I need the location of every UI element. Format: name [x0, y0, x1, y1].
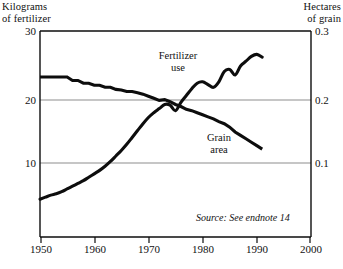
- x-axis-ticks: [41, 237, 310, 243]
- series-annotation-fertilizer-use: Fertilizer use: [148, 50, 208, 73]
- plot-area: [0, 0, 343, 269]
- series-annotation-grain-area: Grain area: [198, 132, 240, 155]
- figure-bottom-caption: [0, 261, 343, 269]
- figure-world-fertilizer-and-grain-area-per-person: Kilograms of fertilizer Hectares of grai…: [0, 0, 343, 269]
- source-note: Source: See endnote 14: [196, 212, 290, 223]
